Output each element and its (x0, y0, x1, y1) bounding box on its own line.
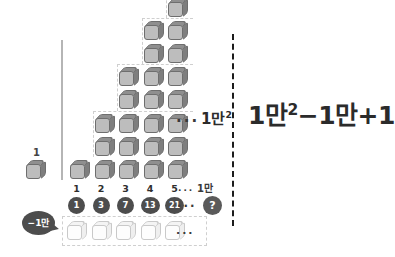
total-chip-1: 1 (68, 197, 85, 214)
cube-side-face (131, 221, 136, 240)
formula-term1-exponent: 2 (287, 101, 297, 119)
stack-cube (144, 160, 164, 180)
stack-total-label: 1만2 (201, 110, 232, 127)
formula-plus-sign: + (358, 101, 378, 130)
ghost-cube (141, 221, 161, 241)
stack-cube (168, 160, 188, 180)
formula-minus-sign: − (298, 101, 318, 130)
stack-cube (119, 160, 139, 180)
cube-front-face (168, 164, 183, 179)
final-formula: 1만2−1만+1 (248, 103, 395, 128)
column-index-2: 2 (94, 184, 108, 194)
step-outline (166, 0, 193, 18)
formula-term3: 1 (378, 101, 395, 130)
ghost-cube (92, 221, 112, 241)
cube-front-face (141, 225, 156, 240)
column-index-4: 4 (143, 184, 157, 194)
ghost-ellipsis: ··· (176, 228, 195, 239)
cube-front-face (95, 164, 110, 179)
formula-term1-base: 1만 (248, 101, 287, 130)
stack-total-exponent: 2 (225, 109, 231, 120)
stack-ellipsis: ··· (176, 114, 199, 129)
step-outline (117, 64, 193, 110)
stack-cube (70, 160, 90, 180)
cube-side-face (134, 160, 139, 179)
cube-front-face (92, 225, 107, 240)
vertical-dashed-divider (232, 34, 234, 226)
stack-cube (95, 160, 115, 180)
cube-front-face (70, 164, 85, 179)
cube-side-face (85, 160, 90, 179)
ghost-cube (116, 221, 136, 241)
cube-front-face (144, 164, 159, 179)
cube-front-face (67, 225, 82, 240)
total-chip-4: 13 (141, 197, 160, 214)
cube-side-face (156, 221, 161, 240)
cube-side-face (183, 160, 188, 179)
cube-side-face (107, 221, 112, 240)
ghost-cube (67, 221, 87, 241)
cube-side-face (41, 160, 46, 179)
formula-term2: 1만 (318, 101, 357, 130)
cube-side-face (82, 221, 87, 240)
chip-ellipsis: ··· (177, 200, 197, 212)
total-chip-2: 3 (93, 197, 110, 214)
unknown-total-chip: ? (203, 196, 222, 215)
index-ellipsis: ··· (178, 186, 194, 195)
last-index-label: 1만 (197, 184, 213, 194)
cube-side-face (159, 160, 164, 179)
unit-cube (26, 160, 46, 180)
vertical-axis-line (61, 40, 63, 180)
unit-cube-label: 1 (33, 148, 40, 158)
cube-front-face (116, 225, 131, 240)
stack-total-base: 1만 (201, 110, 225, 128)
cube-side-face (110, 160, 115, 179)
minus-one-man-bubble: −1만 (22, 211, 55, 235)
cube-front-face (119, 164, 134, 179)
column-index-3: 3 (119, 184, 133, 194)
cube-front-face (26, 164, 41, 179)
column-index-1: 1 (70, 184, 84, 194)
step-outline (142, 18, 193, 64)
total-chip-3: 7 (117, 197, 134, 214)
